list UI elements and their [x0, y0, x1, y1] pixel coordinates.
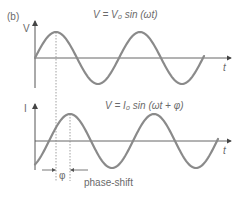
top-axes: [35, 21, 231, 88]
phase-symbol: φ: [59, 171, 65, 181]
bottom-y-axis-label: I: [24, 104, 27, 114]
top-x-axis-label: t: [223, 63, 226, 73]
phase-shift-label: phase-shift: [84, 178, 133, 188]
bottom-axes: [35, 104, 231, 170]
top-y-axis-label: V: [23, 24, 30, 34]
panel-label: (b): [7, 12, 19, 22]
voltage-equation: V = V₀ sin (ωt): [93, 10, 158, 20]
current-equation: V = I₀ sin (ωt + φ): [105, 101, 184, 111]
bottom-x-axis-label: t: [223, 146, 226, 156]
